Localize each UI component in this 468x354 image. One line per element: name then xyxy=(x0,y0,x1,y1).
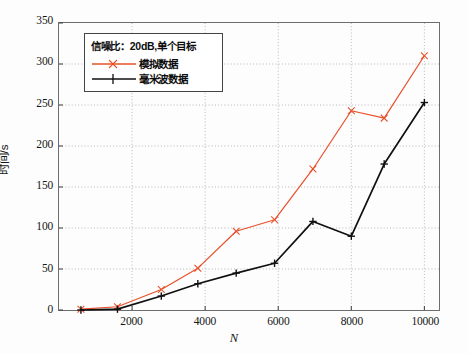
data-point-marker xyxy=(271,216,278,223)
y-tick-label: 50 xyxy=(13,262,53,274)
x-tick-label: 6000 xyxy=(248,315,308,327)
x-tick-label: 10000 xyxy=(395,315,455,327)
x-tick-label: 8000 xyxy=(322,315,382,327)
data-point-marker xyxy=(421,52,428,59)
data-point-marker xyxy=(158,286,165,293)
data-point-marker xyxy=(233,228,240,235)
data-point-marker xyxy=(194,280,201,287)
x-axis-label: N xyxy=(0,331,468,346)
y-tick-label: 300 xyxy=(13,55,53,67)
y-tick-label: 200 xyxy=(13,138,53,150)
y-axis-label: 时间/s xyxy=(0,145,11,176)
data-point-marker xyxy=(194,265,201,272)
data-point-marker xyxy=(310,166,317,173)
x-tick-label: 4000 xyxy=(175,315,235,327)
legend-swatch-simulated xyxy=(91,58,137,70)
legend-entry-1: 毫米波数据 xyxy=(91,71,216,86)
legend-entry-0: 模拟数据 xyxy=(91,56,216,71)
y-tick-label: 150 xyxy=(13,179,53,191)
data-point-marker xyxy=(77,306,84,313)
legend-title: 信噪比：20dB,单个目标 xyxy=(91,38,216,53)
y-tick-label: 0 xyxy=(13,303,53,315)
series-line-1 xyxy=(81,103,424,310)
legend-label-simulated: 模拟数据 xyxy=(137,56,178,71)
legend-swatch-mmwave xyxy=(91,73,137,85)
y-tick-label: 350 xyxy=(13,14,53,26)
chart-figure: 时间/s 350300250200150100500 2000400060008… xyxy=(0,0,468,354)
data-point-marker xyxy=(348,233,355,240)
y-tick-label: 250 xyxy=(13,97,53,109)
data-point-marker xyxy=(158,292,165,299)
data-point-marker xyxy=(233,269,240,276)
legend-box: 信噪比：20dB,单个目标 模拟数据 毫米波数据 xyxy=(84,33,223,92)
legend-label-mmwave: 毫米波数据 xyxy=(137,71,188,86)
y-tick-label: 100 xyxy=(13,220,53,232)
x-tick-label: 2000 xyxy=(101,315,161,327)
series-line-0 xyxy=(81,56,424,309)
